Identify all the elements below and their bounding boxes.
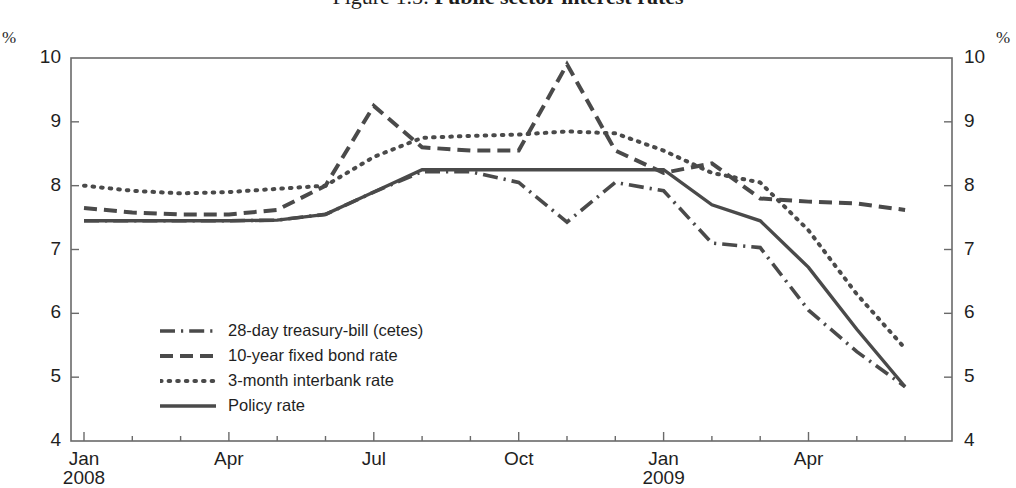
legend-item-3: Policy rate [160, 393, 500, 418]
legend-key-dashed-icon [160, 349, 218, 363]
x-tick-year-4: 2009 [619, 468, 709, 487]
figure-number: Figure 1.5: [332, 0, 429, 9]
legend-key-dotted-icon [160, 374, 218, 388]
y-tick-right-2: 8 [964, 174, 992, 196]
y-tick-right-1: 9 [964, 110, 992, 132]
legend-key-solid-icon [160, 399, 218, 413]
y-axis-left-unit: % [2, 28, 16, 48]
y-tick-right-4: 6 [964, 301, 992, 323]
y-tick-left-1: 9 [33, 110, 61, 132]
y-axis-right-unit: % [996, 28, 1010, 48]
y-tick-right-3: 7 [964, 238, 992, 260]
x-tick-month-3: Oct [504, 448, 534, 469]
legend-item-1: 10-year fixed bond rate [160, 343, 500, 368]
legend-label-1: 10-year fixed bond rate [228, 346, 398, 365]
x-tick-month-1: Apr [214, 448, 244, 469]
x-tick-3: Oct [474, 449, 564, 468]
x-tick-4: Jan2009 [619, 449, 709, 487]
figure-title-text: Public sector interest rates [435, 0, 684, 9]
y-tick-left-0: 10 [33, 46, 61, 68]
y-tick-right-0: 10 [964, 46, 992, 68]
y-tick-left-6: 4 [33, 429, 61, 451]
legend-label-3: Policy rate [228, 396, 305, 415]
y-tick-left-2: 8 [33, 174, 61, 196]
figure-title: Figure 1.5: Public sector interest rates [0, 0, 1016, 10]
x-tick-2: Jul [329, 449, 419, 468]
x-tick-month-5: Apr [794, 448, 824, 469]
chart-legend: 28-day treasury-bill (cetes)10-year fixe… [160, 318, 500, 418]
x-tick-month-2: Jul [362, 448, 386, 469]
y-tick-left-5: 5 [33, 365, 61, 387]
y-tick-left-4: 6 [33, 301, 61, 323]
x-tick-1: Apr [184, 449, 274, 468]
legend-item-0: 28-day treasury-bill (cetes) [160, 318, 500, 343]
x-tick-month-0: Jan [69, 448, 100, 469]
y-tick-left-3: 7 [33, 238, 61, 260]
legend-item-2: 3-month interbank rate [160, 368, 500, 393]
x-tick-0: Jan2008 [39, 449, 129, 487]
y-tick-right-5: 5 [964, 365, 992, 387]
legend-label-2: 3-month interbank rate [228, 371, 394, 390]
legend-label-0: 28-day treasury-bill (cetes) [228, 321, 423, 340]
legend-key-dash-dot-icon [160, 324, 218, 338]
x-tick-5: Apr [764, 449, 854, 468]
x-tick-month-4: Jan [648, 448, 679, 469]
x-tick-year-0: 2008 [39, 468, 129, 487]
y-tick-right-6: 4 [964, 429, 992, 451]
